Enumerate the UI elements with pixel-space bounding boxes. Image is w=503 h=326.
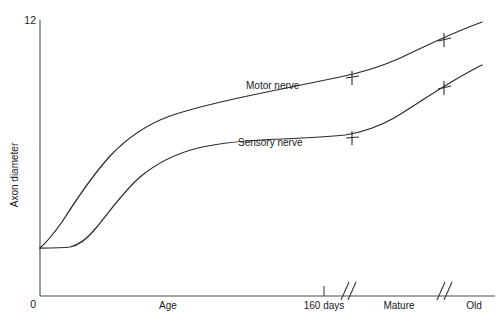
y-axis-top-label: 12 [24, 14, 36, 26]
axis-break-mark-1 [341, 282, 356, 300]
x-axis-label-age: Age [159, 300, 177, 311]
y-axis-title: Axon diameter [9, 142, 20, 207]
axis-break-mark-2 [437, 282, 452, 300]
x-axis-label-160-days: 160 days [304, 300, 345, 311]
chart-container: 12 0 Axon diameter Age 160 days Mature O… [0, 0, 503, 326]
y-axis-zero-label: 0 [30, 298, 36, 310]
series-label-motor-nerve: Motor nerve [246, 80, 300, 91]
series-label-sensory-nerve: Sensory nerve [238, 137, 303, 148]
x-axis-label-old: Old [466, 300, 482, 311]
series-line-motor-nerve [40, 22, 482, 248]
series-line-sensory-nerve [40, 65, 482, 248]
x-axis-label-mature: Mature [383, 300, 415, 311]
axon-diameter-line-chart: 12 0 Axon diameter Age 160 days Mature O… [0, 0, 503, 326]
